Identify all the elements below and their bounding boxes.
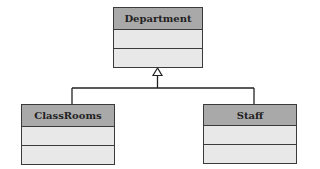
class-department-operations [114,49,202,67]
class-staff-attributes [204,126,296,145]
class-staff-name: Staff [204,105,296,126]
class-classrooms-operations [22,146,114,164]
class-department-attributes [114,30,202,49]
class-classrooms-name: ClassRooms [22,105,114,127]
class-classrooms[interactable]: ClassRooms [21,104,115,165]
class-department[interactable]: Department [113,7,203,68]
generalization-arrow-icon [153,68,162,76]
class-department-name: Department [114,8,202,30]
class-staff-operations [204,145,296,163]
class-staff[interactable]: Staff [203,104,297,164]
class-classrooms-attributes [22,127,114,146]
